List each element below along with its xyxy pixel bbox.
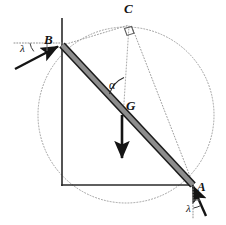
label-friction-angle-a: λ: [186, 203, 191, 214]
ladder-rod: [62, 45, 193, 185]
ladder-equilibrium-figure: [0, 0, 226, 225]
diagram-canvas: C B A G α λ λ: [0, 0, 226, 225]
dotted-line-c-to-a: [132, 27, 193, 184]
dotted-line-b-to-c: [63, 25, 129, 45]
label-point-c: C: [124, 2, 133, 15]
label-angle-alpha: α: [109, 79, 115, 91]
angle-arc-lambda-b: [30, 43, 34, 51]
label-point-a: A: [197, 180, 206, 193]
label-center-of-gravity: G: [126, 99, 135, 112]
label-point-b: B: [44, 33, 53, 46]
right-angle-marker-at-c: [125, 26, 135, 35]
label-friction-angle-b: λ: [20, 43, 25, 54]
angle-arc-lambda-a: [193, 206, 200, 208]
